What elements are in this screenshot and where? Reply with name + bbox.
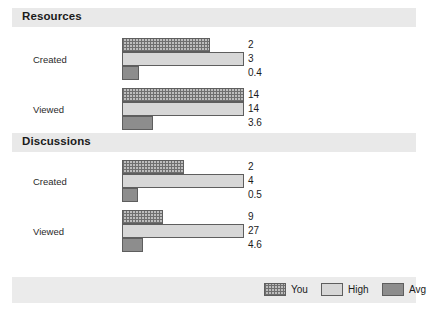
legend-item-avg: Avg bbox=[382, 283, 426, 296]
bar-value-discussions-viewed-you: 9 bbox=[248, 211, 254, 222]
group-label-resources-viewed: Viewed bbox=[33, 104, 64, 115]
bar-resources-created-you bbox=[122, 38, 210, 52]
group-label-resources-created: Created bbox=[33, 54, 67, 65]
legend-swatch-high-icon bbox=[321, 283, 343, 296]
bar-value-resources-created-you: 2 bbox=[248, 39, 254, 50]
section-title-resources: Resources bbox=[22, 10, 82, 22]
bar-discussions-viewed-you bbox=[122, 210, 163, 224]
legend-item-you: You bbox=[264, 283, 308, 296]
bar-value-resources-viewed-you: 14 bbox=[248, 89, 259, 100]
legend-label-high: High bbox=[348, 284, 369, 295]
legend-label-avg: Avg bbox=[409, 284, 426, 295]
bar-discussions-created-you bbox=[122, 160, 184, 174]
bar-resources-created-high bbox=[122, 52, 244, 66]
bar-value-discussions-created-high: 4 bbox=[248, 175, 254, 186]
bar-value-resources-created-avg: 0.4 bbox=[248, 67, 262, 78]
performance-comparison-chart: Resources Created 2 3 0.4 Viewed 14 14 3… bbox=[0, 0, 429, 315]
bar-value-resources-viewed-avg: 3.6 bbox=[248, 117, 262, 128]
legend: You High Avg bbox=[12, 277, 416, 303]
bar-resources-created-avg bbox=[122, 66, 139, 80]
bar-value-discussions-created-avg: 0.5 bbox=[248, 189, 262, 200]
section-title-discussions: Discussions bbox=[22, 135, 91, 147]
bar-value-resources-created-high: 3 bbox=[248, 53, 254, 64]
section-header-resources: Resources bbox=[12, 8, 416, 27]
legend-swatch-you-icon bbox=[264, 283, 286, 296]
bar-discussions-viewed-high bbox=[122, 224, 244, 238]
bar-resources-viewed-avg bbox=[122, 116, 153, 130]
bar-value-discussions-created-you: 2 bbox=[248, 161, 254, 172]
bar-value-discussions-viewed-high: 27 bbox=[248, 225, 259, 236]
legend-swatch-avg-icon bbox=[382, 283, 404, 296]
group-label-discussions-created: Created bbox=[33, 176, 67, 187]
bar-discussions-created-avg bbox=[122, 188, 138, 202]
bar-value-discussions-viewed-avg: 4.6 bbox=[248, 239, 262, 250]
bar-discussions-created-high bbox=[122, 174, 244, 188]
legend-label-you: You bbox=[291, 284, 308, 295]
bar-resources-viewed-you bbox=[122, 88, 244, 102]
group-label-discussions-viewed: Viewed bbox=[33, 226, 64, 237]
section-header-discussions: Discussions bbox=[12, 133, 416, 152]
legend-item-high: High bbox=[321, 283, 369, 296]
bar-resources-viewed-high bbox=[122, 102, 244, 116]
bar-discussions-viewed-avg bbox=[122, 238, 143, 252]
bar-value-resources-viewed-high: 14 bbox=[248, 103, 259, 114]
